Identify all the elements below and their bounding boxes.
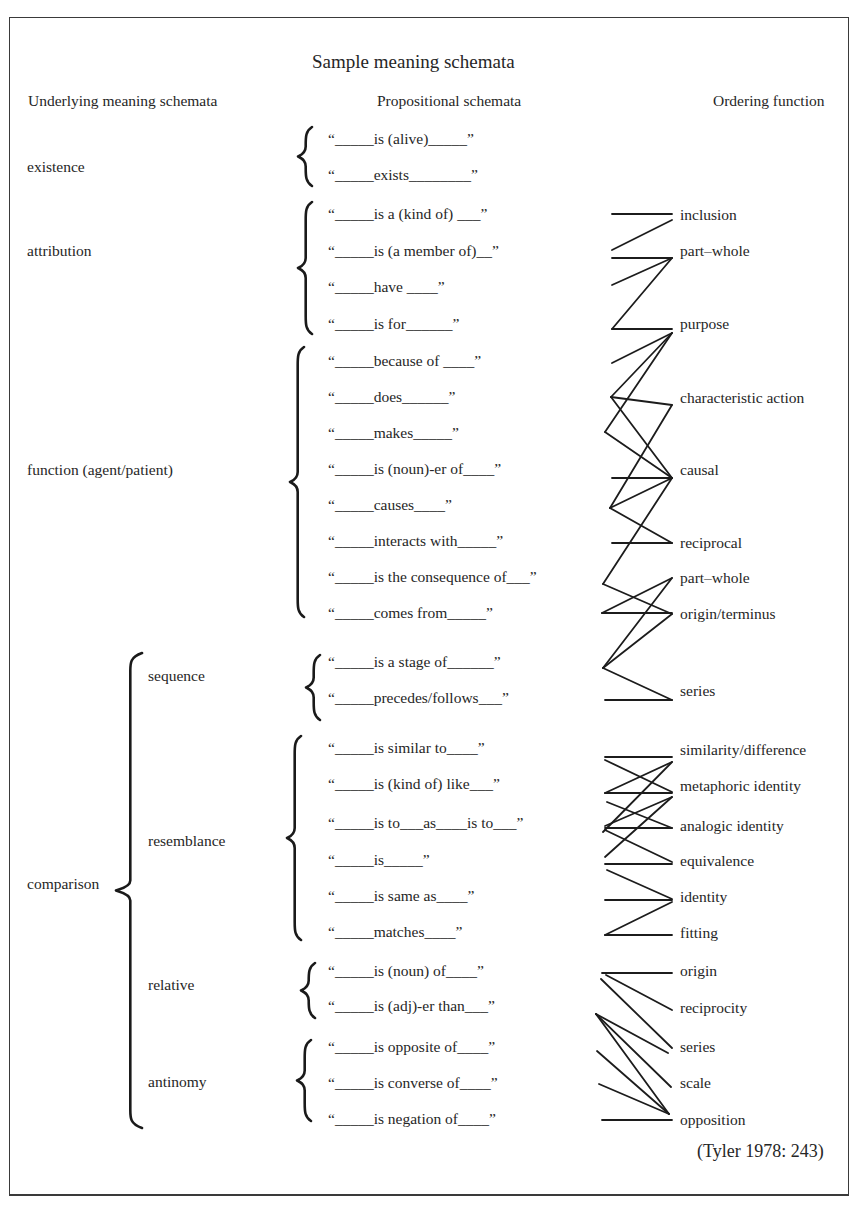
- propositional-schema: “_____comes from_____”: [328, 604, 493, 622]
- propositional-schema: “_____precedes/follows___”: [328, 689, 509, 707]
- ordering-function-label: fitting: [680, 924, 718, 942]
- ordering-function-label: origin/terminus: [680, 605, 776, 623]
- propositional-schema: “_____exists________”: [328, 166, 478, 184]
- ordering-function-label: analogic identity: [680, 817, 784, 835]
- propositional-schema: “_____is (kind of) like___”: [328, 775, 500, 793]
- ordering-function-label: characteristic action: [680, 389, 804, 407]
- propositional-schema: “_____is (noun) of____”: [328, 962, 484, 980]
- propositional-schema: “_____matches____”: [328, 923, 462, 941]
- propositional-schema: “_____is (noun)-er of____”: [328, 460, 501, 478]
- propositional-schema: “_____is a stage of______”: [328, 653, 501, 671]
- ordering-function-label: metaphoric identity: [680, 777, 801, 795]
- ordering-function-label: purpose: [680, 315, 729, 333]
- ordering-function-label: causal: [680, 461, 719, 479]
- ordering-function-label: series: [680, 682, 715, 700]
- ordering-function-label: scale: [680, 1074, 711, 1092]
- header-underlying-meaning-schemata: Underlying meaning schemata: [28, 92, 217, 110]
- ordering-function-label: reciprocal: [680, 534, 742, 552]
- propositional-schema: “_____is opposite of____”: [328, 1038, 495, 1056]
- underlying-schema-function: function (agent/patient): [27, 461, 173, 479]
- propositional-schema: “_____is the consequence of___”: [328, 568, 537, 586]
- propositional-schema: “_____does______”: [328, 388, 455, 406]
- underlying-schema-attribution: attribution: [27, 242, 92, 260]
- citation: (Tyler 1978: 243): [697, 1142, 824, 1160]
- propositional-schema: “_____is same as____”: [328, 887, 474, 905]
- underlying-schema-resemblance: resemblance: [148, 832, 225, 850]
- propositional-schema: “_____is negation of____”: [328, 1110, 496, 1128]
- ordering-function-label: series: [680, 1038, 715, 1056]
- diagram-title: Sample meaning schemata: [312, 51, 515, 73]
- propositional-schema: “_____is (alive)_____”: [328, 130, 474, 148]
- ordering-function-label: equivalence: [680, 852, 754, 870]
- propositional-schema: “_____is for______”: [328, 315, 459, 333]
- propositional-schema: “_____is similar to____”: [328, 739, 485, 757]
- propositional-schema: “_____is to___as____is to___”: [328, 814, 523, 832]
- ordering-function-label: part–whole: [680, 569, 750, 587]
- underlying-schema-existence: existence: [27, 158, 85, 176]
- ordering-function-label: origin: [680, 962, 717, 980]
- propositional-schema: “_____is a (kind of) ___”: [328, 205, 487, 223]
- propositional-schema: “_____is (a member of)__”: [328, 242, 499, 260]
- ordering-function-label: part–whole: [680, 242, 750, 260]
- header-ordering-function: Ordering function: [713, 92, 824, 110]
- header-propositional-schemata: Propositional schemata: [377, 92, 521, 110]
- underlying-schema-sequence: sequence: [148, 667, 205, 685]
- propositional-schema: “_____is_____”: [328, 851, 430, 869]
- ordering-function-label: inclusion: [680, 206, 737, 224]
- ordering-function-label: similarity/difference: [680, 741, 806, 759]
- ordering-function-label: identity: [680, 888, 727, 906]
- propositional-schema: “_____is converse of____”: [328, 1074, 498, 1092]
- propositional-schema: “_____because of ____”: [328, 352, 481, 370]
- underlying-schema-comparison: comparison: [27, 875, 99, 893]
- ordering-function-label: opposition: [680, 1111, 745, 1129]
- ordering-function-label: reciprocity: [680, 999, 747, 1017]
- propositional-schema: “_____is (adj)-er than___”: [328, 997, 495, 1015]
- underlying-schema-antinomy: antinomy: [148, 1073, 207, 1091]
- underlying-schema-relative: relative: [148, 976, 194, 994]
- propositional-schema: “_____causes____”: [328, 496, 452, 514]
- propositional-schema: “_____makes_____”: [328, 424, 459, 442]
- propositional-schema: “_____have ____”: [328, 278, 445, 296]
- propositional-schema: “_____interacts with_____”: [328, 532, 503, 550]
